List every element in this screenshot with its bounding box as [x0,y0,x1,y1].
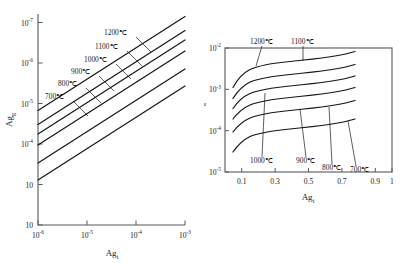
left-temp-label-900: 900℃ [71,67,90,76]
right-y-axis-ticks [225,48,229,172]
right-temp-label-700: 700℃ [350,165,369,174]
right-curve-900 [233,88,355,120]
left-ytick-4-base: 10 [25,181,33,190]
figure-container: 10-7 10-6 10-5 10-4 10 10 10-6 [0,0,408,263]
right-x-axis-title: Agi [302,192,315,204]
left-y-tick-labels: 10-7 10-6 10-5 10-4 10 10 [21,17,33,230]
right-ytick-3-exp: -5 [217,166,222,172]
left-ytick-5-base: 10 [25,221,33,230]
left-temp-label-1000: 1000℃ [84,55,107,64]
right-ytick-0-exp: -2 [217,42,222,48]
left-x-axis-title: Agi [106,248,119,260]
right-temp-label-800: 800℃ [322,163,341,172]
left-temp-label-1100: 1100℃ [95,42,118,51]
left-xtick-1-exp: -5 [89,229,94,235]
svg-text:10-5: 10-5 [209,166,221,177]
left-temp-label-1200: 1200℃ [104,28,127,37]
right-temp-label-1100: 1100℃ [291,37,314,46]
svg-text:10-5: 10-5 [81,229,93,240]
svg-text:10-7: 10-7 [21,17,33,28]
right-xtick-1: 0.3 [270,177,280,186]
right-xtick-0: 0.1 [237,177,247,186]
right-y-axis-title: Agg [204,103,206,117]
svg-text:10-2: 10-2 [209,42,221,53]
left-y-axis-title: Agg [4,113,16,127]
left-ytick-3-exp: -4 [29,138,34,144]
right-x-axis-ticks [242,168,392,172]
left-xtick-2-exp: -4 [138,229,143,235]
right-temp-label-1000: 1000℃ [250,156,273,165]
svg-text:10-3: 10-3 [209,84,221,95]
right-plot-frame [225,48,392,172]
right-curves [233,52,355,153]
right-curve-700 [233,119,355,152]
right-xtick-5: 1 [390,177,394,186]
left-x-axis-ticks [38,221,185,226]
left-ytick-0-exp: -7 [29,17,34,23]
svg-text:10-5: 10-5 [21,98,33,109]
left-chart-panel: 10-7 10-6 10-5 10-4 10 10 10-6 [0,0,204,263]
left-temp-label-700: 700℃ [45,92,64,101]
right-ytick-1-exp: -3 [217,84,222,90]
right-chart-panel: 10-2 10-3 10-4 10-5 0.1 0.3 0.5 0.7 0.9 … [204,0,408,263]
svg-text:10-3: 10-3 [179,229,191,240]
svg-text:10-6: 10-6 [21,57,33,68]
right-xtick-2: 0.5 [304,177,314,186]
svg-text:10-4: 10-4 [21,138,33,149]
svg-text:10-4: 10-4 [130,229,142,240]
right-temp-annotations: 1200℃ 1100℃ 1000℃ 900℃ 800℃ 700℃ [250,37,369,174]
right-xtick-3: 0.7 [337,177,347,186]
svg-text:10-4: 10-4 [209,125,221,136]
left-x-tick-labels: 10-6 10-5 10-4 10-3 [32,229,191,240]
svg-text:10-6: 10-6 [32,229,44,240]
right-temp-label-1200: 1200℃ [250,37,273,46]
left-ytick-1-exp: -6 [29,57,34,63]
right-ytick-2-exp: -4 [217,125,222,131]
right-curve-800 [233,101,355,133]
svg-text:10: 10 [25,181,33,190]
right-x-tick-labels: 0.1 0.3 0.5 0.7 0.9 1 [237,177,394,186]
right-y-tick-labels: 10-2 10-3 10-4 10-5 [209,42,221,177]
left-xtick-0-exp: -6 [40,229,45,235]
left-ytick-2-exp: -5 [29,98,34,104]
left-xtick-3-exp: -3 [187,229,192,235]
right-temp-label-900: 900℃ [296,156,315,165]
svg-text:10: 10 [25,221,33,230]
left-temp-label-800: 800℃ [58,79,77,88]
right-xtick-4: 0.9 [371,177,381,186]
